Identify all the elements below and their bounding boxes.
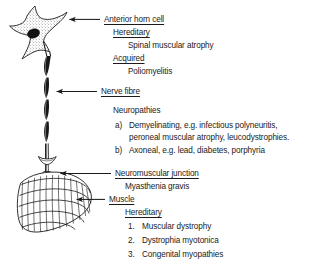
heading-acquired: Acquired [113,54,145,64]
label-anterior-horn-cell: Anterior horn cell [104,15,164,25]
heading-neuropathies: Neuropathies [113,106,161,116]
myelinated-nerve-fibre-icon [43,41,50,160]
list-text: Demyelinating, e.g. infectious polyneuri… [129,121,278,130]
list-text: Muscular dystrophy [142,222,211,231]
list-marker: 3. [128,250,142,260]
list-text: Dystrophia myotonica [142,236,219,245]
muscle-item-1: 1.Muscular dystrophy [128,222,211,232]
muscle-item-2: 2.Dystrophia myotonica [128,236,219,246]
entry-myasthenia-gravis: Myasthenia gravis [125,182,189,192]
heading-hereditary-muscle: Hereditary [125,208,162,218]
neuropathy-item-a-continued: peroneal muscular atrophy, leucodystroph… [129,133,289,143]
label-muscle: Muscle [109,195,134,205]
anterior-horn-cell-icon [10,6,67,59]
list-marker: b) [115,146,129,156]
label-neuromuscular-junction: Neuromuscular junction [115,169,199,179]
list-text-continued: peroneal muscular atrophy, leucodystroph… [129,133,289,142]
list-text: Congenital myopathies [142,250,223,259]
striated-muscle-icon [17,172,91,232]
list-marker: 1. [128,222,142,232]
motor-unit-diagram: Anterior horn cell Hereditary Spinal mus… [0,0,309,264]
neuropathy-item-b: b)Axoneal, e.g. lead, diabetes, porphyri… [115,146,265,156]
list-text: Axoneal, e.g. lead, diabetes, porphyria [129,146,265,155]
list-marker: a) [115,121,129,131]
entry-poliomyelitis: Poliomyelitis [128,67,172,77]
list-marker: 2. [128,236,142,246]
neuropathy-item-a: a)Demyelinating, e.g. infectious polyneu… [115,121,278,131]
heading-hereditary-ahc: Hereditary [113,28,150,38]
label-nerve-fibre: Nerve fibre [101,87,140,97]
muscle-item-3: 3.Congenital myopathies [128,250,223,260]
entry-spinal-muscular-atrophy: Spinal muscular atrophy [128,41,214,51]
